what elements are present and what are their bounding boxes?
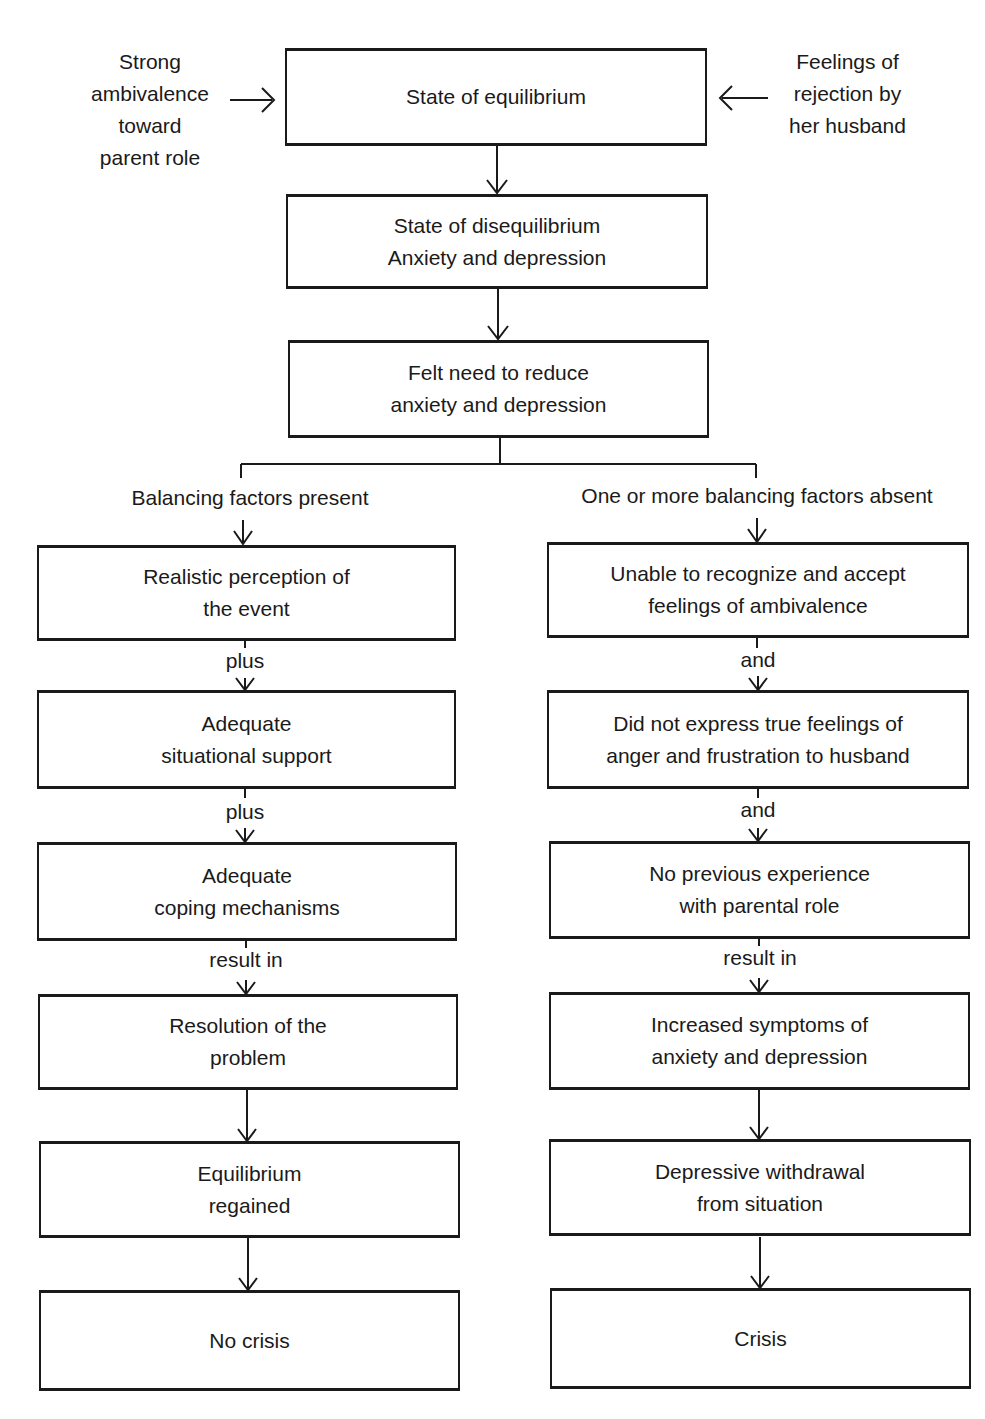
box-text: anger and frustration to husband	[606, 740, 910, 772]
box-text: regained	[209, 1190, 291, 1222]
box-text: Adequate	[202, 708, 292, 740]
box-text: No crisis	[209, 1325, 290, 1357]
connector-label: result in	[186, 944, 306, 976]
box-resolution: Resolution of the problem	[38, 994, 458, 1090]
side-input-right-line: Feelings of	[775, 46, 920, 78]
box-text: anxiety and depression	[652, 1041, 868, 1073]
box-did-not-express: Did not express true feelings of anger a…	[547, 690, 969, 789]
box-no-previous-experience: No previous experience with parental rol…	[549, 841, 970, 939]
box-text: coping mechanisms	[154, 892, 340, 924]
side-input-right: Feelings of rejection by her husband	[775, 46, 920, 142]
connector-label: and	[708, 644, 808, 676]
box-text: the event	[203, 593, 289, 625]
box-coping-mechanisms: Adequate coping mechanisms	[37, 842, 457, 941]
box-text: Crisis	[734, 1323, 787, 1355]
box-text: State of disequilibrium	[394, 210, 601, 242]
box-realistic-perception: Realistic perception of the event	[37, 545, 456, 641]
box-depressive-withdrawal: Depressive withdrawal from situation	[549, 1139, 971, 1236]
box-text: Realistic perception of	[143, 561, 350, 593]
side-input-right-line: rejection by	[775, 78, 920, 110]
connector-label: plus	[195, 796, 295, 828]
box-text: Resolution of the	[169, 1010, 327, 1042]
box-state-of-disequilibrium: State of disequilibrium Anxiety and depr…	[286, 194, 708, 289]
box-situational-support: Adequate situational support	[37, 690, 456, 789]
box-text: with parental role	[680, 890, 840, 922]
box-text: Depressive withdrawal	[655, 1156, 865, 1188]
side-input-right-line: her husband	[775, 110, 920, 142]
box-no-crisis: No crisis	[39, 1290, 460, 1391]
side-input-left-line: parent role	[80, 142, 220, 174]
box-text: Felt need to reduce	[408, 357, 589, 389]
connector-label: plus	[195, 645, 295, 677]
branch-heading-left: Balancing factors present	[100, 482, 400, 514]
side-input-left-line: toward	[80, 110, 220, 142]
box-text: from situation	[697, 1188, 823, 1220]
branch-heading-right: One or more balancing factors absent	[552, 480, 962, 512]
box-text: No previous experience	[649, 858, 870, 890]
box-text: Equilibrium	[198, 1158, 302, 1190]
box-text: problem	[210, 1042, 286, 1074]
box-text: Anxiety and depression	[388, 242, 606, 274]
side-input-left-line: Strong	[80, 46, 220, 78]
side-input-left: Strong ambivalence toward parent role	[80, 46, 220, 174]
connector-label: result in	[700, 942, 820, 974]
box-crisis: Crisis	[550, 1288, 971, 1389]
box-text: Did not express true feelings of	[613, 708, 903, 740]
box-unable-to-recognize: Unable to recognize and accept feelings …	[547, 542, 969, 638]
box-text: Adequate	[202, 860, 292, 892]
connector-label: and	[708, 794, 808, 826]
box-state-of-equilibrium: State of equilibrium	[285, 48, 707, 146]
box-text: situational support	[161, 740, 331, 772]
box-text: Unable to recognize and accept	[610, 558, 905, 590]
box-text: State of equilibrium	[406, 81, 586, 113]
box-felt-need: Felt need to reduce anxiety and depressi…	[288, 340, 709, 438]
box-text: anxiety and depression	[391, 389, 607, 421]
box-text: feelings of ambivalence	[648, 590, 867, 622]
side-input-left-line: ambivalence	[80, 78, 220, 110]
box-equilibrium-regained: Equilibrium regained	[39, 1141, 460, 1238]
box-text: Increased symptoms of	[651, 1009, 868, 1041]
box-increased-symptoms: Increased symptoms of anxiety and depres…	[549, 992, 970, 1090]
